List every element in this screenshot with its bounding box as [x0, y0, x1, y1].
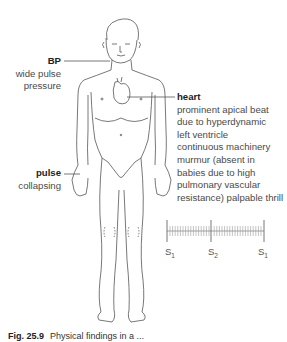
heart-line: continuous machinery [177, 141, 287, 154]
caption-text: Physical findings in a ... [50, 331, 144, 341]
phonocardiogram [167, 220, 264, 242]
pulse-label: pulse collapsing [10, 167, 61, 192]
heart-line: left ventricle [177, 129, 287, 142]
heart-line: prominent apical beat [177, 104, 287, 117]
bp-line: pressure [10, 80, 61, 93]
figure-number: Fig. 25.9 [8, 331, 44, 341]
heart-title: heart [177, 91, 287, 104]
heart-sound-s1-first: S1 [165, 246, 175, 259]
heart-line: due to hyperdynamic [177, 116, 287, 129]
bp-title: BP [10, 55, 61, 68]
bp-label: BP wide pulse pressure [10, 55, 61, 93]
heart-line: murmur (absent in [177, 154, 287, 167]
clinical-findings-figure: BP wide pulse pressure pulse collapsing … [0, 0, 287, 342]
heart-line: pulmonary vascular [177, 179, 287, 192]
pulse-title: pulse [10, 167, 61, 180]
heart-sound-s2: S2 [208, 246, 218, 259]
pulse-line: collapsing [10, 180, 61, 193]
heart-line: resistance) palpable thrill [177, 192, 287, 205]
figure-caption: Fig. 25.9Physical findings in a ... [8, 331, 144, 341]
heart-line: babies due to high [177, 167, 287, 180]
bp-line: wide pulse [10, 68, 61, 81]
heart-label: heart prominent apical beat due to hyper… [177, 91, 287, 204]
heart-sound-s1-second: S1 [258, 246, 268, 259]
